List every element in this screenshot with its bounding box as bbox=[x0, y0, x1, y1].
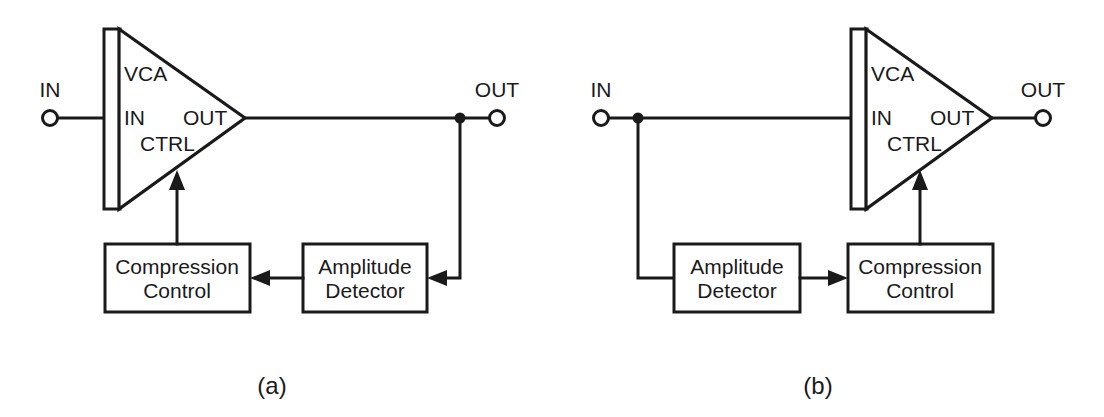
figure-root: IN VCA IN OUT CTRL OUT Amplitude Detecto… bbox=[0, 0, 1104, 417]
wire-a-feedback-tap bbox=[442, 118, 460, 278]
terminal-out-b-label: OUT bbox=[1021, 78, 1066, 101]
block-diagram-canvas: IN VCA IN OUT CTRL OUT Amplitude Detecto… bbox=[0, 0, 1104, 417]
terminal-out-a[interactable] bbox=[490, 111, 505, 126]
terminal-out-a-label: OUT bbox=[475, 78, 520, 101]
terminal-out-b[interactable] bbox=[1036, 111, 1051, 126]
vca-b-pin-in: IN bbox=[871, 106, 892, 129]
block-compression-control-b-line2: Control bbox=[886, 279, 954, 302]
vca-b-pin-out: OUT bbox=[930, 106, 975, 129]
terminal-in-b-label: IN bbox=[591, 78, 612, 101]
block-compression-control-a-line2: Control bbox=[143, 279, 211, 302]
block-amplitude-detector-b-line2: Detector bbox=[697, 279, 776, 302]
block-amplitude-detector-a-line1: Amplitude bbox=[318, 255, 411, 278]
vca-b-title: VCA bbox=[871, 62, 914, 85]
terminal-in-b[interactable] bbox=[594, 111, 609, 126]
vca-a-pin-ctrl: CTRL bbox=[140, 132, 195, 155]
terminal-in-a[interactable] bbox=[43, 111, 58, 126]
arrowhead-b-into-compression-control bbox=[828, 270, 848, 286]
block-compression-control-b-line1: Compression bbox=[858, 255, 982, 278]
panel-a: IN VCA IN OUT CTRL OUT Amplitude Detecto… bbox=[40, 29, 520, 399]
block-amplitude-detector-a-line2: Detector bbox=[325, 279, 404, 302]
block-amplitude-detector-b-line1: Amplitude bbox=[690, 255, 783, 278]
panel-b-caption: (b) bbox=[803, 372, 832, 399]
arrowhead-a-into-amplitude-detector bbox=[427, 270, 447, 286]
panel-a-caption: (a) bbox=[257, 372, 286, 399]
arrowhead-a-into-compression-control bbox=[250, 270, 270, 286]
wire-b-feedforward-tap bbox=[638, 118, 674, 278]
terminal-in-a-label: IN bbox=[40, 78, 61, 101]
panel-b: IN VCA IN OUT CTRL OUT Amplitude Detecto… bbox=[591, 29, 1066, 399]
vca-a-pin-out: OUT bbox=[183, 106, 228, 129]
vca-b-pin-ctrl: CTRL bbox=[887, 132, 942, 155]
vca-a-title: VCA bbox=[124, 62, 167, 85]
vca-a-pin-in: IN bbox=[124, 106, 145, 129]
block-compression-control-a-line1: Compression bbox=[115, 255, 239, 278]
